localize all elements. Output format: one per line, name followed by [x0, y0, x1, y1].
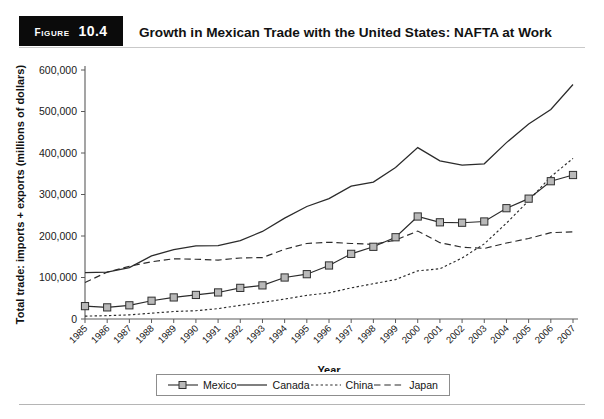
x-axis-tick-label: 1988	[133, 323, 156, 346]
y-axis-tick-label: 200,000	[39, 230, 77, 242]
y-axis-tick-label: 400,000	[39, 147, 77, 159]
x-axis-tick-label: 1986	[89, 323, 112, 346]
x-axis-tick-label: 1995	[288, 323, 311, 346]
y-axis-title: Total trade: imports + exports (millions…	[14, 65, 26, 325]
series-line-japan	[85, 231, 573, 282]
series-marker-mexico	[569, 171, 576, 178]
series-marker-mexico	[104, 304, 111, 311]
series-marker-mexico	[148, 297, 155, 304]
x-axis-tick-label: 2007	[555, 323, 578, 346]
series-marker-mexico	[259, 282, 266, 289]
series-marker-mexico	[458, 219, 465, 226]
legend-label-japan: Japan	[409, 379, 438, 391]
figure-header: Figure 10.4 Growth in Mexican Trade with…	[19, 16, 585, 48]
chart-area: 0100,000200,000300,000400,000500,000600,…	[0, 52, 604, 372]
legend-line-with-square-marker-icon	[168, 380, 198, 390]
x-axis-tick-label: 1987	[111, 323, 134, 346]
x-axis-tick-label: 1999	[377, 323, 400, 346]
x-axis-tick-label: 2002	[444, 323, 467, 346]
series-marker-mexico	[436, 219, 443, 226]
x-axis-tick-label: 1992	[222, 323, 245, 346]
x-axis-tick-label: 2000	[399, 323, 422, 346]
series-marker-mexico	[192, 291, 199, 298]
legend-solid-line-icon	[237, 380, 267, 390]
series-marker-mexico	[414, 213, 421, 220]
legend-item-japan: Japan	[374, 379, 438, 391]
series-marker-mexico	[547, 178, 554, 185]
x-axis-title: Year	[317, 364, 341, 372]
legend-label-china: China	[346, 379, 374, 391]
x-axis-tick-label: 1985	[67, 323, 90, 346]
x-axis-tick-label: 1991	[200, 323, 223, 346]
series-line-china	[85, 158, 573, 316]
header-divider	[19, 47, 585, 48]
legend-item-mexico: Mexico	[168, 379, 237, 391]
y-axis-tick-label: 600,000	[39, 64, 77, 76]
x-axis-tick-label: 2001	[421, 323, 444, 346]
x-axis-tick-label: 1994	[266, 322, 289, 345]
series-marker-mexico	[303, 271, 310, 278]
figure-badge-word: Figure	[35, 23, 70, 39]
x-axis-tick-label: 1998	[355, 323, 378, 346]
y-axis-tick-label: 0	[71, 313, 77, 325]
legend-item-china: China	[311, 379, 374, 391]
figure-title: Growth in Mexican Trade with the United …	[123, 16, 585, 48]
series-marker-mexico	[281, 274, 288, 281]
y-axis-tick-label: 500,000	[39, 105, 77, 117]
chart-svg: 0100,000200,000300,000400,000500,000600,…	[0, 52, 604, 372]
series-marker-mexico	[170, 294, 177, 301]
x-axis-tick-label: 1990	[177, 323, 200, 346]
series-marker-mexico	[481, 218, 488, 225]
footer-divider	[19, 404, 585, 405]
x-axis-tick-label: 1996	[311, 323, 334, 346]
figure-page: Figure 10.4 Growth in Mexican Trade with…	[0, 0, 604, 419]
chart-legend: Mexico Canada China Japan	[156, 374, 450, 396]
series-marker-mexico	[214, 289, 221, 296]
legend-label-mexico: Mexico	[203, 379, 237, 391]
x-axis-tick-label: 1993	[244, 323, 267, 346]
y-axis-tick-label: 100,000	[39, 271, 77, 283]
series-marker-mexico	[503, 205, 510, 212]
x-axis-tick-label: 2003	[466, 323, 489, 346]
series-marker-mexico	[81, 303, 88, 310]
series-marker-mexico	[237, 284, 244, 291]
y-axis-tick-label: 300,000	[39, 188, 77, 200]
figure-badge: Figure 10.4	[19, 16, 123, 46]
x-axis-tick-label: 1997	[333, 323, 356, 346]
series-marker-mexico	[348, 250, 355, 257]
series-marker-mexico	[325, 262, 332, 269]
legend-dashed-line-icon	[374, 380, 404, 390]
series-marker-mexico	[370, 243, 377, 250]
series-marker-mexico	[126, 302, 133, 309]
x-axis-tick-label: 2004	[488, 322, 511, 345]
figure-badge-number: 10.4	[79, 23, 108, 39]
series-line-mexico	[85, 175, 573, 307]
legend-item-canada: Canada	[237, 379, 309, 391]
legend-dotted-line-icon	[311, 380, 341, 390]
x-axis-tick-label: 2006	[532, 323, 555, 346]
series-marker-mexico	[392, 234, 399, 241]
x-axis-tick-label: 1989	[155, 323, 178, 346]
x-axis-tick-label: 2005	[510, 323, 533, 346]
legend-label-canada: Canada	[272, 379, 309, 391]
series-marker-mexico	[525, 195, 532, 202]
